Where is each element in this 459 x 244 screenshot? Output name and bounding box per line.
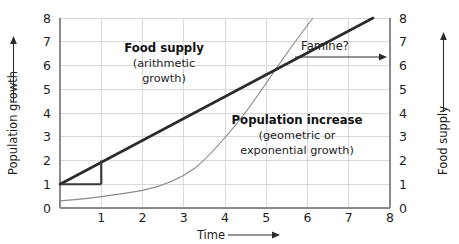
chart-figure: 0 1 2 3 4 5 6 7 8 0 1 2 3 4 5 6 7 8 1 2 … xyxy=(0,0,459,244)
y-tick-0: 0 xyxy=(43,201,51,216)
y-axis-right-title: Food supply xyxy=(436,106,450,175)
x-tick-6: 6 xyxy=(304,210,312,225)
y-axis-left-tick-labels: 0 1 2 3 4 5 6 7 8 xyxy=(43,11,51,216)
y2-tick-6: 6 xyxy=(399,58,407,73)
x-axis-title: Time xyxy=(196,228,225,242)
food-supply-label-line1: Food supply xyxy=(124,41,204,55)
y-tick-6: 6 xyxy=(43,58,51,73)
y2-tick-2: 2 xyxy=(399,153,407,168)
population-increase-label-line3: exponential growth) xyxy=(240,144,354,157)
y-tick-4: 4 xyxy=(43,106,51,121)
food-supply-label-line2: (arithmetic xyxy=(133,57,195,70)
x-tick-2: 2 xyxy=(139,210,147,225)
y2-tick-0: 0 xyxy=(399,201,407,216)
population-increase-label-line1: Population increase xyxy=(232,113,363,127)
population-increase-label-line2: (geometric or xyxy=(259,129,336,142)
y2-tick-4: 4 xyxy=(399,106,407,121)
y-tick-2: 2 xyxy=(43,153,51,168)
food-supply-label-line3: growth) xyxy=(142,72,186,85)
malthusian-growth-chart: 0 1 2 3 4 5 6 7 8 0 1 2 3 4 5 6 7 8 1 2 … xyxy=(0,0,459,244)
y-tick-5: 5 xyxy=(43,82,51,97)
y-tick-1: 1 xyxy=(43,177,51,192)
x-tick-5: 5 xyxy=(262,210,270,225)
y2-tick-5: 5 xyxy=(399,82,407,97)
y-tick-8: 8 xyxy=(43,11,51,26)
famine-label: Famine? xyxy=(301,39,349,53)
x-tick-4: 4 xyxy=(221,210,229,225)
y-tick-3: 3 xyxy=(43,129,51,144)
x-tick-1: 1 xyxy=(97,210,105,225)
y2-tick-3: 3 xyxy=(399,129,407,144)
y-tick-7: 7 xyxy=(43,34,51,49)
y-axis-right-tick-labels: 0 1 2 3 4 5 6 7 8 xyxy=(399,11,407,216)
y2-tick-8: 8 xyxy=(399,11,407,26)
x-tick-8: 8 xyxy=(386,210,394,225)
x-tick-7: 7 xyxy=(345,210,353,225)
y2-tick-7: 7 xyxy=(399,34,407,49)
x-tick-3: 3 xyxy=(180,210,188,225)
y2-tick-1: 1 xyxy=(399,177,407,192)
